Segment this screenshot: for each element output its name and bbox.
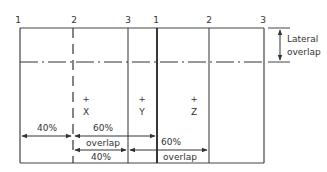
label-strip1-3: 3	[125, 15, 131, 25]
dim-60-top-label: 60%	[93, 123, 113, 133]
dim-60-right-label: 60%	[161, 137, 181, 147]
point-z-marker: +	[190, 94, 197, 104]
dim-40-bottom-label: 40%	[91, 152, 111, 162]
point-x-marker: +	[82, 94, 89, 104]
dim-overlap-top-label: overlap	[86, 138, 120, 148]
label-strip2-3: 3	[260, 15, 266, 25]
label-strip2-1: 1	[153, 15, 159, 25]
overlap-diagram: 1 2 3 1 2 3 Lateral overlap + X + Y + Z …	[0, 0, 327, 172]
label-strip1-1: 1	[15, 15, 21, 25]
dim-overlap-right-label: overlap	[163, 152, 197, 162]
lateral-label-1: Lateral	[287, 34, 318, 44]
lateral-label-2: overlap	[287, 47, 321, 57]
point-y-label: Y	[138, 107, 145, 117]
point-z-label: Z	[191, 107, 197, 117]
label-strip2-2: 2	[206, 15, 212, 25]
dim-40-left-label: 40%	[37, 123, 57, 133]
point-y-marker: +	[138, 94, 145, 104]
label-strip1-2: 2	[71, 15, 77, 25]
point-x-label: X	[83, 107, 89, 117]
